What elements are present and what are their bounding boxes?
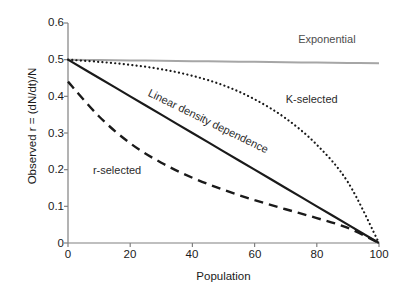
chart-figure: Observed r = (dN/dt)/N 0.6 0.5 0.4 0.3 0… — [0, 0, 407, 304]
plot-area — [0, 0, 407, 304]
series-label-k-selected: K-selected — [286, 93, 338, 105]
series-label-exponential: Exponential — [298, 33, 356, 45]
series-path-linear-density-dependence — [68, 60, 379, 243]
series-label-r-selected: r-selected — [93, 164, 141, 176]
data-series — [68, 60, 379, 243]
axes — [64, 23, 379, 247]
